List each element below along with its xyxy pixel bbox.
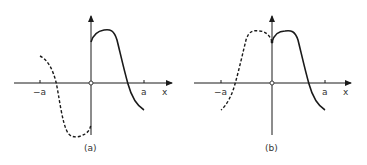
cusp-point-b: [271, 41, 274, 44]
caption-b: (b): [265, 143, 278, 153]
tick-label-plus-a-b: a: [322, 87, 328, 97]
dashed-curve-a: [40, 56, 91, 137]
dashed-curve-b: [221, 31, 272, 110]
axis-label-x-a: x: [162, 87, 168, 97]
panel-a: −a a x (a): [14, 16, 172, 153]
origin-a: [89, 81, 93, 85]
tick-label-minus-a-b: −a: [214, 87, 227, 97]
caption-a: (a): [84, 143, 97, 153]
axis-label-x-b: x: [343, 87, 349, 97]
solid-curve-b: [272, 31, 325, 110]
solid-curve-a: [91, 30, 144, 110]
origin-b: [270, 81, 274, 85]
panel-b: −a a x (b): [194, 16, 351, 153]
figure-canvas: −a a x (a) −a a x (b): [0, 0, 367, 165]
tick-label-minus-a: −a: [33, 87, 46, 97]
tick-label-plus-a: a: [141, 87, 147, 97]
